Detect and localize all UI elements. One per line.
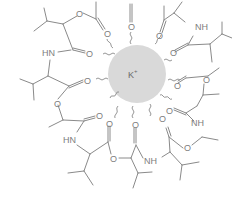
atom-nh: NH [191,118,204,128]
atom-hn: HN [42,48,55,58]
atom-o: O [159,114,166,124]
atom-o: O [128,22,135,32]
atom-nh: NH [195,22,208,32]
valinomycin-k-complex-diagram: K + [0,0,232,213]
atom-o: O [132,120,139,130]
atom-o: O [174,81,181,91]
atom-o: O [86,49,93,59]
atom-o: O [166,106,173,116]
atom-nh: NH [144,156,157,166]
atom-o: O [170,48,177,58]
atom-o: O [96,111,103,121]
atom-o: O [54,99,61,109]
atom-o: O [203,75,210,85]
atom-o: O [84,76,91,86]
structure-svg: K + [0,0,232,213]
atom-o: O [110,154,117,164]
atom-o: O [106,119,113,129]
atom-o: O [76,9,83,19]
atom-o: O [184,143,191,153]
atom-o: O [104,29,111,39]
atom-o: O [156,31,163,41]
ion-charge: + [134,68,138,74]
atom-hn: HN [63,135,76,145]
potassium-ion [108,45,166,103]
